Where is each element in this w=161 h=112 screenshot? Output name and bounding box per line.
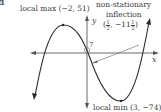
leader-arrow-icon [92, 60, 98, 63]
x-axis [30, 51, 159, 55]
local-max-label: local max (−2, 51) [20, 5, 90, 13]
inflection-coords: (12, −1112) [103, 20, 138, 31]
inflection-label-line1: non-stationary [96, 1, 151, 9]
paren-close: ) [135, 20, 138, 29]
part-label: d [0, 0, 4, 7]
local-max-coords: (−2, 51) [59, 4, 90, 13]
cubic-graph-figure: d local max (−2, 51) non-stationary infl… [0, 0, 161, 112]
local-max-point [62, 24, 64, 26]
inflection-label-line2: inflection [106, 11, 142, 19]
y-intercept-label: 7 [89, 42, 93, 49]
inflection-leader-line [93, 45, 139, 63]
local-max-text: local max [20, 4, 56, 13]
inflection-y-whole: , −11 [110, 20, 131, 29]
curve-arrow-up-icon [146, 18, 151, 25]
y-axis [85, 15, 89, 109]
local-min-label: local min (3, −74) [93, 104, 161, 112]
local-min-text: local min [93, 103, 128, 112]
curve-arrow-down-icon [32, 93, 37, 100]
y-axis-label: y [92, 17, 96, 25]
x-axis-label: x [152, 56, 156, 64]
local-min-point [120, 100, 122, 102]
cubic-curve [35, 22, 149, 101]
local-min-coords: (3, −74) [130, 103, 161, 112]
